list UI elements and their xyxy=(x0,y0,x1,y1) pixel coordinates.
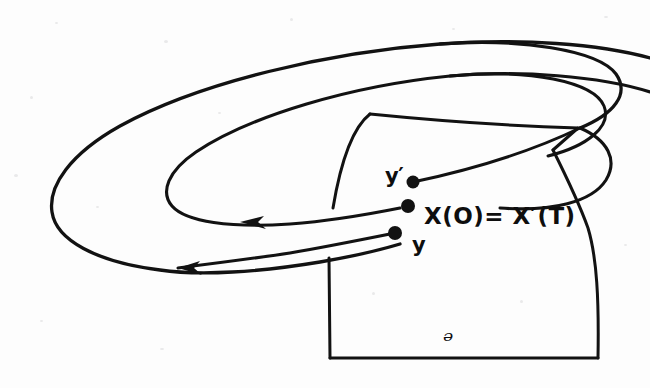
outer-wrap-top xyxy=(440,42,621,128)
inner-orbit-arrowhead xyxy=(240,216,266,229)
trajectory-to-y xyxy=(178,233,395,268)
inner-wrap-top xyxy=(450,74,606,156)
x-zero-point xyxy=(401,199,415,213)
surface-edge-lower-left xyxy=(329,258,330,358)
label-section-domain-u: ᵊ xyxy=(443,325,453,356)
label-y: y xyxy=(412,233,426,257)
figure-canvas: y′ y X(O)= X′(T) ᵊ xyxy=(0,0,650,388)
trajectory-y-path xyxy=(178,233,395,268)
label-poincare-return-equation: X(O)= X′(T) xyxy=(424,203,576,229)
surface-edge-right xyxy=(553,150,598,358)
diagram-svg xyxy=(0,0,650,388)
y-point xyxy=(388,226,402,240)
surface-edge-top xyxy=(370,114,578,128)
label-y-prime: y′ xyxy=(385,164,403,188)
y-prime-point xyxy=(407,176,420,189)
surface-edge-upper-left xyxy=(333,114,370,208)
transversal-section-surface xyxy=(329,114,598,358)
